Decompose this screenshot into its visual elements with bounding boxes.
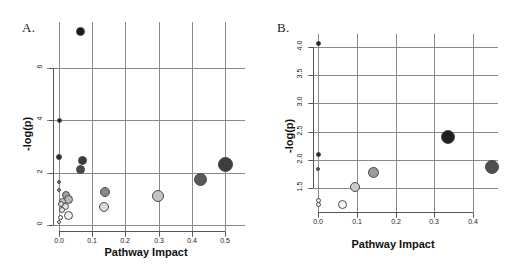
gridline-vertical-4: [473, 34, 474, 218]
data-point: [194, 173, 207, 186]
x-tick-0: [318, 213, 319, 217]
y-tick-2: [309, 132, 313, 133]
gridline-horizontal-2: [47, 120, 245, 121]
data-point: [59, 207, 65, 213]
data-point: [218, 157, 233, 172]
y-tick-1: [309, 160, 313, 161]
y-tick-3: [49, 68, 53, 69]
y-tick-label-4: 3.5: [296, 66, 303, 82]
x-tick-label-1: 0.1: [345, 218, 369, 225]
gridline-vertical-1: [92, 22, 93, 237]
gridline-horizontal-5: [308, 47, 498, 48]
data-point: [368, 167, 379, 178]
x-tick-1: [357, 213, 358, 217]
panel-b: B. -log(p) Pathway Impact 0.00.10.20.30.…: [260, 0, 520, 269]
gridline-vertical-3: [434, 34, 435, 218]
data-point: [316, 202, 321, 207]
gridline-horizontal-0: [47, 225, 245, 226]
y-tick-label-2: 2.5: [296, 123, 303, 139]
x-tick-3: [434, 213, 435, 217]
data-point: [338, 200, 347, 209]
data-point: [57, 118, 62, 123]
y-tick-2: [49, 120, 53, 121]
x-axis-line: [59, 231, 225, 232]
gridline-horizontal-0: [308, 188, 498, 189]
gridline-horizontal-2: [308, 132, 498, 133]
x-tick-2: [396, 213, 397, 217]
y-tick-label-5: 4.0: [296, 38, 303, 54]
x-tick-label-4: 0.4: [180, 237, 204, 244]
x-tick-label-5: 0.5: [213, 237, 237, 244]
y-tick-label-2: 4: [36, 111, 43, 127]
y-tick-label-1: 2.0: [296, 151, 303, 167]
gridline-horizontal-1: [308, 160, 498, 161]
gridline-horizontal-3: [47, 68, 245, 69]
data-point: [76, 27, 85, 36]
data-point: [316, 41, 321, 46]
gridline-horizontal-1: [47, 173, 245, 174]
y-tick-1: [49, 173, 53, 174]
data-point: [350, 182, 360, 192]
data-point: [99, 202, 109, 212]
y-tick-label-0: 1.5: [296, 179, 303, 195]
y-tick-5: [309, 47, 313, 48]
x-tick-4: [473, 213, 474, 217]
x-tick-label-3: 0.3: [147, 237, 171, 244]
gridline-horizontal-4: [308, 75, 498, 76]
y-tick-label-1: 2: [36, 164, 43, 180]
x-tick-label-2: 0.2: [113, 237, 137, 244]
gridline-vertical-3: [159, 22, 160, 237]
data-point: [76, 165, 85, 174]
data-point: [316, 152, 321, 157]
x-tick-label-0: 0.0: [47, 237, 71, 244]
gridline-vertical-5: [225, 22, 226, 237]
x-tick-3: [159, 232, 160, 236]
gridline-vertical-4: [192, 22, 193, 237]
gridline-vertical-2: [125, 22, 126, 237]
x-tick-5: [225, 232, 226, 236]
data-point: [485, 160, 499, 174]
data-point: [316, 167, 320, 171]
x-tick-1: [92, 232, 93, 236]
data-point: [57, 180, 61, 184]
x-tick-4: [192, 232, 193, 236]
data-point: [152, 190, 164, 202]
data-point: [57, 188, 61, 192]
y-tick-4: [309, 75, 313, 76]
x-tick-2: [125, 232, 126, 236]
data-point: [64, 211, 73, 220]
data-point: [58, 215, 63, 220]
y-axis-line: [53, 68, 54, 225]
gridline-vertical-2: [396, 34, 397, 218]
data-point: [56, 154, 62, 160]
x-tick-label-1: 0.1: [80, 237, 104, 244]
y-tick-label-3: 6: [36, 59, 43, 75]
panel-b-plot-area: 0.00.10.20.30.41.52.02.53.03.54.0: [260, 0, 520, 269]
y-tick-3: [309, 103, 313, 104]
data-point: [441, 130, 455, 144]
data-point: [100, 187, 110, 197]
x-tick-label-4: 0.4: [461, 218, 485, 225]
y-tick-label-3: 3.0: [296, 94, 303, 110]
gridline-horizontal-3: [308, 103, 498, 104]
x-tick-0: [59, 232, 60, 236]
data-point: [57, 220, 61, 224]
y-tick-label-0: 0: [36, 216, 43, 232]
panel-a: A. -log(p) Pathway Impact 0.00.10.20.30.…: [0, 0, 260, 269]
x-tick-label-2: 0.2: [384, 218, 408, 225]
x-tick-label-0: 0.0: [306, 218, 330, 225]
figure-container: A. -log(p) Pathway Impact 0.00.10.20.30.…: [0, 0, 520, 269]
gridline-vertical-0: [318, 34, 319, 218]
y-tick-0: [309, 188, 313, 189]
y-tick-0: [49, 225, 53, 226]
y-axis-line: [313, 47, 314, 188]
panel-a-plot-area: 0.00.10.20.30.40.50246: [0, 0, 260, 269]
x-tick-label-3: 0.3: [422, 218, 446, 225]
